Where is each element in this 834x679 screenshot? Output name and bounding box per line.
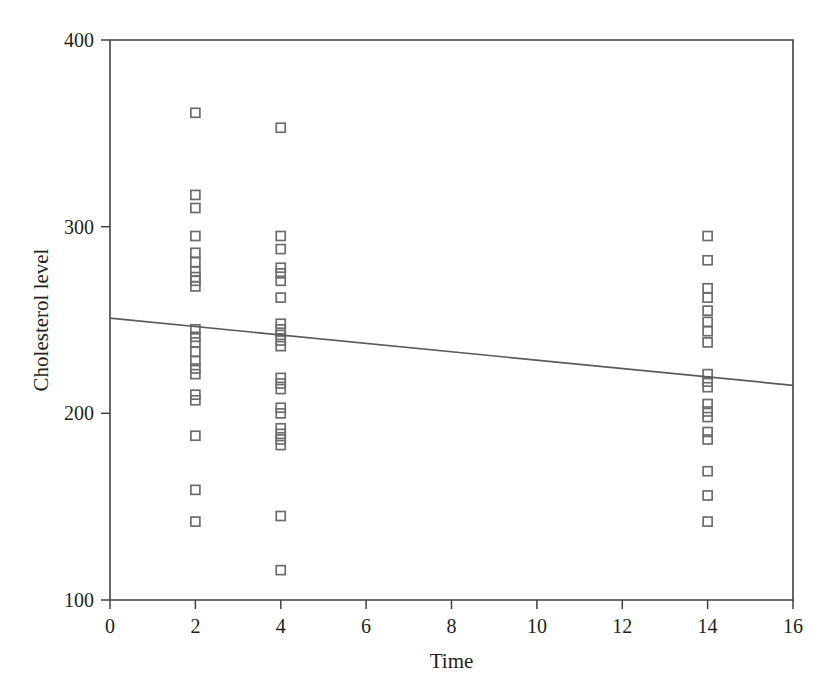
data-point-marker [703, 306, 712, 315]
data-point-marker [703, 383, 712, 392]
data-point-marker [276, 403, 285, 412]
data-markers [191, 108, 712, 574]
data-point-marker [191, 390, 200, 399]
x-axis-ticks [110, 600, 793, 609]
data-point-marker [191, 190, 200, 199]
data-point-marker [703, 327, 712, 336]
y-axis-ticks [101, 40, 110, 600]
data-point-marker [703, 284, 712, 293]
x-axis-title: Time [430, 649, 474, 673]
data-point-marker [191, 396, 200, 405]
x-tick-label-0: 0 [105, 615, 115, 637]
data-point-marker [703, 317, 712, 326]
data-point-marker [276, 293, 285, 302]
data-point-marker [703, 517, 712, 526]
y-tick-label-200: 200 [64, 402, 94, 424]
data-point-marker [276, 245, 285, 254]
data-point-marker [276, 435, 285, 444]
trend-line [110, 318, 793, 385]
data-point-marker [703, 293, 712, 302]
data-point-marker [276, 409, 285, 418]
data-point-marker [276, 232, 285, 241]
data-point-marker [703, 232, 712, 241]
x-tick-label-6: 6 [361, 615, 371, 637]
data-point-marker [191, 517, 200, 526]
data-point-marker [276, 385, 285, 394]
data-point-marker [191, 258, 200, 267]
data-point-marker [276, 566, 285, 575]
data-point-marker [276, 342, 285, 351]
data-point-marker [703, 467, 712, 476]
data-point-marker [276, 263, 285, 272]
data-point-marker [276, 336, 285, 345]
y-tick-label-400: 400 [64, 29, 94, 51]
data-point-marker [703, 338, 712, 347]
data-point-marker [191, 267, 200, 276]
data-point-marker [191, 370, 200, 379]
y-tick-label-300: 300 [64, 216, 94, 238]
plot-canvas: 400 300 200 100 0 2 4 6 8 10 12 14 [0, 0, 834, 679]
plot-frame [110, 40, 793, 600]
data-point-marker [703, 491, 712, 500]
regression-line [110, 318, 793, 385]
data-point-marker [276, 379, 285, 388]
data-point-marker [276, 441, 285, 450]
x-tick-label-4: 4 [276, 615, 286, 637]
data-point-marker [276, 424, 285, 433]
data-point-marker [276, 325, 285, 334]
data-point-marker [276, 319, 285, 328]
y-axis-tick-labels: 400 300 200 100 [64, 29, 94, 611]
data-point-marker [191, 485, 200, 494]
data-point-marker [276, 429, 285, 438]
data-point-marker [276, 373, 285, 382]
data-point-marker [703, 413, 712, 422]
data-point-marker [191, 338, 200, 347]
data-point-marker [276, 512, 285, 521]
x-axis-tick-labels: 0 2 4 6 8 10 12 14 16 [105, 615, 803, 637]
data-point-marker [191, 282, 200, 291]
data-point-marker [191, 347, 200, 356]
data-point-marker [191, 248, 200, 257]
y-tick-label-100: 100 [64, 589, 94, 611]
x-tick-label-14: 14 [698, 615, 718, 637]
data-point-marker [191, 108, 200, 117]
x-tick-label-12: 12 [612, 615, 632, 637]
y-axis-title: Cholesterol level [29, 248, 53, 391]
x-tick-label-8: 8 [447, 615, 457, 637]
x-tick-label-2: 2 [190, 615, 200, 637]
x-tick-label-16: 16 [783, 615, 803, 637]
data-point-marker [191, 204, 200, 213]
data-point-marker [191, 431, 200, 440]
scatter-plot-figure: 400 300 200 100 0 2 4 6 8 10 12 14 [0, 0, 834, 679]
x-tick-label-10: 10 [527, 615, 547, 637]
data-point-marker [276, 123, 285, 132]
data-point-marker [703, 256, 712, 265]
data-point-marker [191, 232, 200, 241]
